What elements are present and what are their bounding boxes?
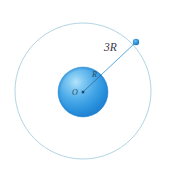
center-point-marker xyxy=(82,91,85,94)
orbit-point-marker xyxy=(133,39,139,45)
physics-diagram-figure: 3R R O xyxy=(0,0,173,180)
label-outer-radius: 3R xyxy=(103,41,117,53)
label-center-origin: O xyxy=(72,88,78,97)
diagram-canvas: 3R R O xyxy=(0,0,173,180)
label-inner-radius: R xyxy=(91,70,97,79)
